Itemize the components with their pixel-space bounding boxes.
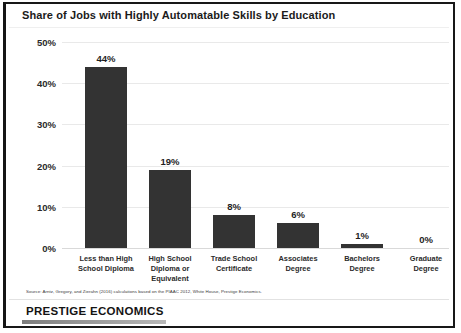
x-axis-category-line: School Diploma	[73, 264, 139, 274]
x-axis-category-line: Equivalent	[137, 274, 203, 284]
bar-value-label: 0%	[419, 234, 433, 245]
bar[interactable]	[277, 223, 319, 248]
brand-wordmark: PRESTIGE ECONOMICS	[26, 305, 164, 317]
bar-group[interactable]: 8%Trade SchoolCertificate	[202, 42, 266, 248]
y-axis-tick-label: 10%	[37, 201, 56, 212]
title-divider	[9, 27, 449, 28]
bar-series: 44%Less than HighSchool Diploma19%High S…	[62, 42, 449, 248]
bar-value-label: 1%	[355, 230, 369, 241]
x-axis-category-label: AssociatesDegree	[265, 248, 331, 274]
x-axis-category-label: Less than HighSchool Diploma	[73, 248, 139, 274]
source-note: Source: Arntz, Gregory, and Zierahn (201…	[26, 289, 262, 294]
x-axis-category-line: Certificate	[201, 264, 267, 274]
footer: PRESTIGE ECONOMICS	[9, 305, 449, 325]
bar-group[interactable]: 0%GraduateDegree	[394, 42, 458, 248]
x-axis-category-line: High School	[137, 254, 203, 264]
y-axis-tick-label: 50%	[37, 37, 56, 48]
x-axis-category-label: High SchoolDiploma orEquivalent	[137, 248, 203, 283]
x-axis-category-line: Degree	[393, 264, 459, 274]
bar[interactable]	[85, 67, 127, 248]
x-axis-category-line: Diploma or	[137, 264, 203, 274]
x-axis-category-label: BachelorsDegree	[329, 248, 395, 274]
bar-value-label: 8%	[227, 201, 241, 212]
bar-value-label: 44%	[96, 53, 115, 64]
y-axis-tick-label: 20%	[37, 160, 56, 171]
x-axis-category-line: Trade School	[201, 254, 267, 264]
x-axis-category-line: Graduate	[393, 254, 459, 264]
slide-frame-left-edge	[3, 2, 6, 328]
x-axis-category-line: Less than High	[73, 254, 139, 264]
chart-card: Share of Jobs with Highly Automatable Sk…	[9, 6, 449, 284]
x-axis-category-line: Bachelors	[329, 254, 395, 264]
chart-title: Share of Jobs with Highly Automatable Sk…	[22, 9, 335, 21]
bar-group[interactable]: 6%AssociatesDegree	[266, 42, 330, 248]
bar-group[interactable]: 1%BachelorsDegree	[330, 42, 394, 248]
footer-divider	[9, 299, 449, 300]
x-axis-category-label: Trade SchoolCertificate	[201, 248, 267, 274]
plot-area: 50%40%30%20%10%0% 44%Less than HighSchoo…	[62, 42, 449, 248]
x-axis-category-line: Degree	[265, 264, 331, 274]
y-axis-tick-label: 0%	[42, 243, 56, 254]
x-axis-category-label: GraduateDegree	[393, 248, 459, 274]
bar-value-label: 19%	[160, 156, 179, 167]
bar-value-label: 6%	[291, 209, 305, 220]
bar[interactable]	[213, 215, 255, 248]
x-axis-category-line: Degree	[329, 264, 395, 274]
y-axis-tick-label: 30%	[37, 119, 56, 130]
slide-screenshot: Share of Jobs with Highly Automatable Sk…	[0, 0, 461, 333]
bar-group[interactable]: 19%High SchoolDiploma orEquivalent	[138, 42, 202, 248]
bar-group[interactable]: 44%Less than HighSchool Diploma	[74, 42, 138, 248]
bar[interactable]	[149, 170, 191, 248]
y-axis-tick-label: 40%	[37, 78, 56, 89]
x-axis-category-line: Associates	[265, 254, 331, 264]
brand-underline	[22, 320, 166, 324]
